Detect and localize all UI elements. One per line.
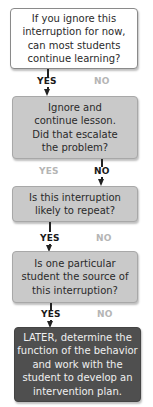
yes-label: YES xyxy=(40,233,60,243)
question-text: Is this interruption likely to repeat? xyxy=(29,191,121,218)
question-text: Ignore and continue lesson. Did that esc… xyxy=(32,101,117,155)
no-label: NO xyxy=(97,309,113,319)
question-text: If you ignore this interruption for now,… xyxy=(23,12,126,66)
question-text: Is one particular student the source of … xyxy=(21,257,128,298)
question-box-particular-student: Is one particular student the source of … xyxy=(12,251,138,303)
action-box-intervention-plan: LATER, determine the function of the beh… xyxy=(14,327,141,402)
question-box-escalate: Ignore and continue lesson. Did that esc… xyxy=(12,96,138,159)
no-label: NO xyxy=(94,166,110,176)
no-label: NO xyxy=(94,76,110,86)
connector-line xyxy=(49,222,51,232)
arrow-down-icon xyxy=(98,179,104,186)
question-box-ignore-interruption: If you ignore this interruption for now,… xyxy=(10,8,138,69)
yes-label: YES xyxy=(41,309,61,319)
action-text: LATER, determine the function of the beh… xyxy=(17,331,137,399)
yes-label: YES xyxy=(39,166,59,176)
no-label: NO xyxy=(96,233,112,243)
yes-label: YES xyxy=(37,76,57,86)
question-box-repeat: Is this interruption likely to repeat? xyxy=(12,186,138,222)
arrow-down-icon xyxy=(44,89,50,96)
